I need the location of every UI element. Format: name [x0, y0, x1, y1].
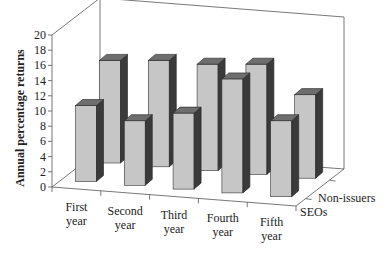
- x-category-label: Fourthyear: [207, 211, 239, 239]
- y-tick-label: 20: [34, 28, 46, 42]
- y-tick-label: 8: [40, 119, 46, 133]
- y-tick-label: 0: [40, 180, 46, 194]
- depth-axis: Non-issuersSEOs: [300, 180, 376, 219]
- x-axis: FirstyearSecondyearThirdyearFourthyearFi…: [52, 187, 296, 243]
- bar-seos-5: [271, 115, 299, 197]
- y-tick-label: 12: [34, 89, 46, 103]
- y-axis-label: Annual percentage returns: [13, 49, 27, 187]
- y-tick-label: 18: [34, 43, 46, 57]
- bar-seos-3: [173, 107, 201, 189]
- x-category-label: Thirdyear: [161, 208, 188, 236]
- y-tick-label: 2: [40, 165, 46, 179]
- depth-label-non-issuers: Non-issuers: [318, 191, 376, 205]
- bar-chart-3d: 02468101214161820 FirstyearSecondyearThi…: [0, 0, 391, 259]
- bar-seos-4: [222, 73, 250, 193]
- y-tick-label: 16: [34, 58, 46, 72]
- y-tick-label: 6: [40, 134, 46, 148]
- depth-label-seos: SEOs: [300, 205, 328, 219]
- bar-seos-1: [76, 100, 104, 182]
- x-category-label: Fifthyear: [260, 215, 283, 243]
- y-tick-label: 4: [40, 150, 46, 164]
- bars: [76, 54, 323, 196]
- x-category-label: Firstyear: [65, 200, 88, 228]
- y-axis: 02468101214161820: [34, 28, 52, 194]
- y-tick-label: 10: [34, 104, 46, 118]
- y-tick-label: 14: [34, 74, 46, 88]
- x-category-label: Secondyear: [108, 204, 143, 232]
- bar-seos-2: [124, 115, 152, 186]
